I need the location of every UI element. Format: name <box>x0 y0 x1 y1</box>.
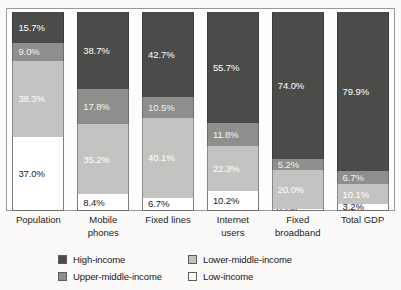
category-label-line: users <box>201 227 266 240</box>
segment-value-label: 5.2% <box>273 160 299 170</box>
segment-value-label: 38.3% <box>13 94 44 104</box>
segment-value-label: 55.7% <box>208 63 239 73</box>
category-label-line: Total GDP <box>330 214 395 227</box>
bar-segment: 79.9% <box>337 12 389 171</box>
segment-value-label: 20.0% <box>273 185 304 195</box>
segment-value-label: 6.7% <box>338 173 364 183</box>
bar-segment: 9.0% <box>12 43 64 61</box>
bar-group: 74.0%5.2%20.0%0.7% <box>272 8 324 211</box>
segment-value-label: 10.5% <box>143 103 174 113</box>
category-label: Fixedbroadband <box>265 214 330 239</box>
bar-segment: 10.2% <box>207 191 259 211</box>
segment-value-label: 79.9% <box>338 87 369 97</box>
legend-label: Low-income <box>203 272 253 282</box>
bar-segment: 35.2% <box>77 124 129 194</box>
segment-value-label: 9.0% <box>13 47 39 57</box>
stacked-bar[interactable]: 15.7%9.0%38.3%37.0% <box>12 12 64 211</box>
category-label-line: phones <box>71 227 136 240</box>
category-label-line: Mobile <box>71 214 136 227</box>
legend-item[interactable]: High-income <box>58 255 188 265</box>
bar-segment: 10.1% <box>337 184 389 204</box>
category-label-line: broadband <box>265 227 330 240</box>
legend-item[interactable]: Low-income <box>188 272 348 282</box>
segment-value-label: 0.7% <box>273 209 297 210</box>
stacked-bar[interactable]: 79.9%6.7%10.1%3.2% <box>337 12 389 211</box>
legend-swatch-icon <box>188 255 197 264</box>
legend-swatch-icon <box>58 272 67 281</box>
bar-segment: 8.4% <box>77 194 129 211</box>
legend-swatch-icon <box>58 255 67 264</box>
bar-segment: 10.5% <box>142 97 194 118</box>
segment-value-label: 11.8% <box>208 130 239 140</box>
segment-value-label: 8.4% <box>78 198 104 208</box>
segment-value-label: 3.2% <box>338 204 364 210</box>
bar-group: 38.7%17.8%35.2%8.4% <box>77 8 129 211</box>
stacked-bar[interactable]: 55.7%11.8%22.3%10.2% <box>207 12 259 211</box>
segment-value-label: 38.7% <box>78 46 109 56</box>
segment-value-label: 17.8% <box>78 102 109 112</box>
chart-legend: High-incomeLower-middle-incomeUpper-midd… <box>58 251 348 285</box>
category-label-line: Fixed <box>265 214 330 227</box>
segment-value-label: 42.7% <box>143 50 174 60</box>
category-label: Internetusers <box>201 214 266 239</box>
bar-segment: 0.7% <box>272 209 324 210</box>
stacked-bar[interactable]: 74.0%5.2%20.0%0.7% <box>272 12 324 211</box>
stacked-bar-chart: 15.7%9.0%38.3%37.0%38.7%17.8%35.2%8.4%42… <box>0 0 401 290</box>
bar-group: 79.9%6.7%10.1%3.2% <box>337 8 389 211</box>
stacked-bar[interactable]: 38.7%17.8%35.2%8.4% <box>77 12 129 211</box>
category-axis: PopulationMobilephonesFixed linesInterne… <box>6 214 395 248</box>
legend-label: High-income <box>73 255 125 265</box>
bar-segment: 55.7% <box>207 12 259 123</box>
bar-segment: 38.7% <box>77 12 129 89</box>
bar-segment: 42.7% <box>142 12 194 97</box>
bar-segment: 3.2% <box>337 204 389 210</box>
category-label-line: Fixed lines <box>136 214 201 227</box>
bar-segment: 6.7% <box>337 171 389 184</box>
legend-item[interactable]: Upper-middle-income <box>58 272 188 282</box>
segment-value-label: 22.3% <box>208 164 239 174</box>
stacked-bar[interactable]: 42.7%10.5%40.1%6.7% <box>142 12 194 211</box>
bar-segment: 74.0% <box>272 12 324 159</box>
segment-value-label: 40.1% <box>143 153 174 163</box>
bar-group: 15.7%9.0%38.3%37.0% <box>12 8 64 211</box>
category-label: Total GDP <box>330 214 395 227</box>
segment-value-label: 74.0% <box>273 81 304 91</box>
legend-swatch-icon <box>188 272 197 281</box>
category-label-line: Internet <box>201 214 266 227</box>
bar-segment: 17.8% <box>77 89 129 124</box>
segment-value-label: 15.7% <box>13 23 44 33</box>
bar-segment: 20.0% <box>272 170 324 210</box>
category-label: Fixed lines <box>136 214 201 227</box>
legend-item[interactable]: Lower-middle-income <box>188 255 348 265</box>
bar-segment: 15.7% <box>12 12 64 43</box>
bar-segment: 40.1% <box>142 118 194 198</box>
segment-value-label: 10.1% <box>338 190 369 200</box>
bar-segment: 6.7% <box>142 198 194 211</box>
bar-segment: 22.3% <box>207 146 259 190</box>
bar-segment: 5.2% <box>272 159 324 169</box>
category-label-line: Population <box>6 214 71 227</box>
bar-group: 42.7%10.5%40.1%6.7% <box>142 8 194 211</box>
bar-segment: 11.8% <box>207 123 259 146</box>
segment-value-label: 35.2% <box>78 155 109 165</box>
segment-value-label: 37.0% <box>13 169 44 179</box>
category-label: Population <box>6 214 71 227</box>
bar-segment: 37.0% <box>12 137 64 211</box>
legend-label: Lower-middle-income <box>203 255 292 265</box>
segment-value-label: 10.2% <box>208 196 239 206</box>
category-label: Mobilephones <box>71 214 136 239</box>
bar-segment: 38.3% <box>12 61 64 137</box>
bar-group: 55.7%11.8%22.3%10.2% <box>207 8 259 211</box>
legend-label: Upper-middle-income <box>73 272 162 282</box>
segment-value-label: 6.7% <box>143 199 169 209</box>
bars-area: 15.7%9.0%38.3%37.0%38.7%17.8%35.2%8.4%42… <box>6 8 395 211</box>
